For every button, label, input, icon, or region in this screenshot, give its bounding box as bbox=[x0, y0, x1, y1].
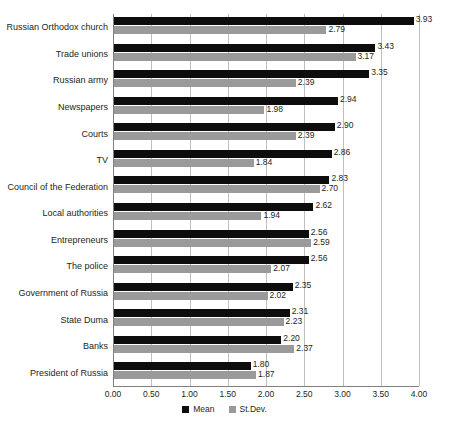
bar-stdev bbox=[113, 318, 284, 326]
bar-value-label-mean: 2.83 bbox=[331, 174, 348, 183]
bar-group: 2.941.98 bbox=[113, 94, 419, 121]
bar-mean bbox=[113, 70, 369, 78]
bar-chart: Russian Orthodox churchTrade unionsRussi… bbox=[0, 0, 449, 431]
bar-value-label-mean: 2.86 bbox=[334, 148, 351, 157]
bar-mean bbox=[113, 309, 290, 317]
bar-value-label-stdev: 1.94 bbox=[263, 211, 280, 220]
bar-mean bbox=[113, 362, 251, 370]
legend-entry-mean: Mean bbox=[182, 404, 214, 414]
bar-stdev bbox=[113, 345, 294, 353]
category-label: Courts bbox=[0, 129, 108, 139]
category-axis-labels: Russian Orthodox churchTrade unionsRussi… bbox=[0, 14, 108, 386]
bar-value-label-mean: 2.94 bbox=[340, 95, 357, 104]
bar-value-label-stdev: 1.87 bbox=[258, 370, 275, 379]
bar-group: 2.562.59 bbox=[113, 227, 419, 254]
bar-group: 2.861.84 bbox=[113, 147, 419, 174]
value-tick-label: 2.50 bbox=[296, 389, 313, 399]
legend-swatch-mean-icon bbox=[182, 406, 189, 413]
value-tick-label: 0.50 bbox=[143, 389, 160, 399]
bar-value-label-mean: 1.80 bbox=[253, 360, 270, 369]
bar-group: 2.312.23 bbox=[113, 306, 419, 333]
bar-stdev bbox=[113, 26, 326, 34]
bar-value-label-mean: 2.56 bbox=[311, 254, 328, 263]
bar-stdev bbox=[113, 292, 268, 300]
category-label: TV bbox=[0, 155, 108, 165]
legend-entry-stdev: St.Dev. bbox=[229, 404, 267, 414]
category-label: Council of the Federation bbox=[0, 182, 108, 192]
category-label: Government of Russia bbox=[0, 288, 108, 298]
bar-mean bbox=[113, 176, 329, 184]
value-axis-tick-labels: 0.000.501.001.502.002.503.003.504.00 bbox=[0, 389, 449, 403]
bar-value-label-stdev: 2.39 bbox=[298, 78, 315, 87]
bar-value-label-mean: 3.43 bbox=[377, 42, 394, 51]
bar-stdev bbox=[113, 239, 311, 247]
bar-value-label-mean: 2.31 bbox=[292, 307, 309, 316]
legend-swatch-stdev-icon bbox=[229, 406, 236, 413]
category-label: Russian army bbox=[0, 75, 108, 85]
legend-label-mean: Mean bbox=[193, 404, 214, 414]
bar-value-label-mean: 2.56 bbox=[311, 228, 328, 237]
bar-value-label-mean: 2.90 bbox=[337, 121, 354, 130]
bar-stdev bbox=[113, 53, 356, 61]
bar-value-label-stdev: 2.02 bbox=[270, 291, 287, 300]
legend-label-stdev: St.Dev. bbox=[240, 404, 267, 414]
bar-group: 3.932.79 bbox=[113, 14, 419, 41]
bar-group: 2.562.07 bbox=[113, 253, 419, 280]
bar-stdev bbox=[113, 212, 261, 220]
bar-value-label-stdev: 2.07 bbox=[273, 264, 290, 273]
bar-stdev bbox=[113, 132, 296, 140]
bar-value-label-stdev: 2.23 bbox=[286, 317, 303, 326]
category-label: Entrepreneurs bbox=[0, 235, 108, 245]
bar-group: 2.202.37 bbox=[113, 333, 419, 360]
value-tick-label: 0.00 bbox=[105, 389, 122, 399]
bar-value-label-stdev: 2.39 bbox=[298, 131, 315, 140]
chart-legend: Mean St.Dev. bbox=[0, 404, 449, 414]
category-label: State Duma bbox=[0, 315, 108, 325]
bar-value-label-stdev: 1.98 bbox=[266, 105, 283, 114]
bar-stdev bbox=[113, 185, 320, 193]
plot-area: 3.932.793.433.173.352.392.941.982.902.39… bbox=[113, 14, 419, 386]
bar-value-label-mean: 2.62 bbox=[315, 201, 332, 210]
bar-value-label-stdev: 2.59 bbox=[313, 238, 330, 247]
bar-group: 1.801.87 bbox=[113, 359, 419, 386]
bar-group: 2.621.94 bbox=[113, 200, 419, 227]
value-tick-label: 3.50 bbox=[372, 389, 389, 399]
bar-group: 2.352.02 bbox=[113, 280, 419, 307]
bar-stdev bbox=[113, 106, 264, 114]
bar-stdev bbox=[113, 265, 271, 273]
bar-stdev bbox=[113, 371, 256, 379]
value-tick-label: 1.00 bbox=[181, 389, 198, 399]
bar-value-label-mean: 3.93 bbox=[416, 15, 433, 24]
bar-group: 3.433.17 bbox=[113, 41, 419, 68]
bar-value-label-stdev: 2.37 bbox=[296, 344, 313, 353]
bar-mean bbox=[113, 150, 332, 158]
bar-mean bbox=[113, 283, 293, 291]
category-label: Trade unions bbox=[0, 49, 108, 59]
category-label: Local authorities bbox=[0, 208, 108, 218]
bar-value-label-stdev: 2.70 bbox=[322, 184, 339, 193]
category-axis-line bbox=[113, 386, 419, 387]
value-tick-label: 3.00 bbox=[334, 389, 351, 399]
bar-mean bbox=[113, 17, 414, 25]
bar-stdev bbox=[113, 159, 254, 167]
bar-mean bbox=[113, 203, 313, 211]
bar-value-label-stdev: 3.17 bbox=[358, 52, 375, 61]
bar-mean bbox=[113, 97, 338, 105]
value-tick-label: 4.00 bbox=[411, 389, 428, 399]
gridline bbox=[419, 14, 420, 386]
category-label: The police bbox=[0, 261, 108, 271]
category-label: President of Russia bbox=[0, 368, 108, 378]
value-tick-label: 1.50 bbox=[219, 389, 236, 399]
bar-value-label-mean: 3.35 bbox=[371, 68, 388, 77]
bar-group: 2.832.70 bbox=[113, 173, 419, 200]
bar-group: 2.902.39 bbox=[113, 120, 419, 147]
bar-value-label-stdev: 1.84 bbox=[256, 158, 273, 167]
bar-stdev bbox=[113, 79, 296, 87]
value-tick-label: 2.00 bbox=[258, 389, 275, 399]
bar-group: 3.352.39 bbox=[113, 67, 419, 94]
bar-value-label-stdev: 2.79 bbox=[328, 25, 345, 34]
bar-mean bbox=[113, 230, 309, 238]
category-label: Banks bbox=[0, 341, 108, 351]
bar-mean bbox=[113, 44, 375, 52]
category-label: Newspapers bbox=[0, 102, 108, 112]
